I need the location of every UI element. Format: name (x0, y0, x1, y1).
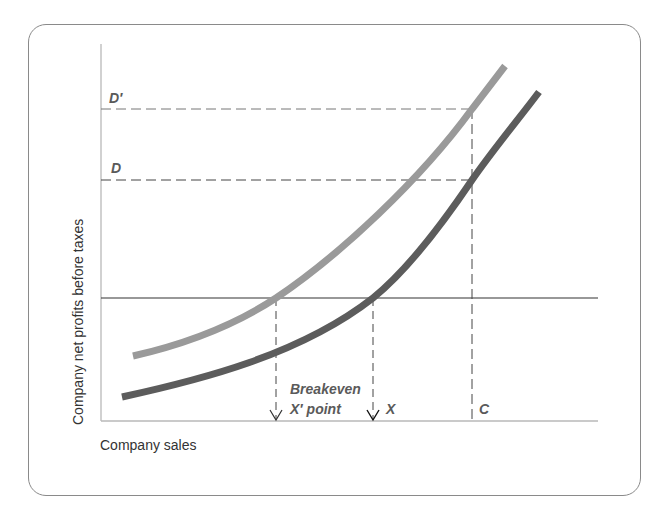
d-label: D (111, 160, 121, 176)
breakeven-label: Breakeven (290, 381, 361, 397)
x-prime-point-label: X′ point (290, 401, 341, 417)
c-label: C (479, 401, 489, 417)
y-axis-title: Company net profits before taxes (70, 219, 86, 425)
x-axis-title: Company sales (100, 437, 197, 453)
x-label: X (386, 401, 395, 417)
dark-profit-curve (122, 92, 539, 397)
d-prime-label: D′ (109, 90, 122, 106)
